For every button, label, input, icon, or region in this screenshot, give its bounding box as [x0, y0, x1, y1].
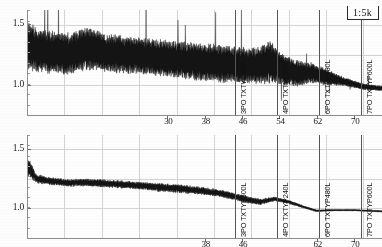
- marker-label: 7PO TXTYP600L: [366, 183, 373, 237]
- chart-panel-top: 1.51.0 303846546270 3PO TXTYP600L4PO TXT…: [0, 0, 382, 125]
- y-minor-tick: [28, 135, 30, 136]
- y-tick-mark: [28, 149, 31, 150]
- y-minor-tick: [28, 207, 30, 208]
- y-minor-tick: [28, 31, 30, 32]
- marker-label: 6PO TXTYP480L: [324, 183, 331, 237]
- y-tick-mark: [28, 24, 31, 25]
- y-tick-mark: [28, 85, 31, 86]
- x-tick-label: 46: [239, 240, 247, 247]
- y-minor-tick: [28, 42, 30, 43]
- marker-label: 4PO TXTYP240L: [282, 183, 289, 237]
- y-tick-label: 1.0: [13, 80, 24, 90]
- y-minor-tick: [28, 217, 30, 218]
- y-minor-tick: [28, 52, 30, 53]
- y-minor-tick: [28, 176, 30, 177]
- y-minor-tick: [28, 145, 30, 146]
- chart-panel-bottom: 1.51.0 38466270 3PO TXTYP600L4PO TXTYP24…: [0, 125, 382, 247]
- y-minor-tick: [28, 73, 30, 74]
- marker-line: [235, 10, 236, 115]
- marker-label: 6PO TXTYP480L: [324, 60, 331, 114]
- marker-line: [319, 135, 320, 238]
- y-minor-tick: [28, 166, 30, 167]
- y-minor-tick: [28, 21, 30, 22]
- marker-line: [319, 10, 320, 115]
- marker-label: 3PO TXTYP600L: [240, 60, 247, 114]
- y-minor-tick: [28, 10, 30, 11]
- marker-line: [277, 135, 278, 238]
- y-minor-tick: [28, 187, 30, 188]
- marker-line: [361, 10, 362, 115]
- marker-label: 7PO TXTYP600L: [366, 60, 373, 114]
- y-tick-label: 1.5: [13, 144, 24, 154]
- x-tick-label: 62: [314, 240, 322, 247]
- x-tick-label: 70: [351, 240, 359, 247]
- y-minor-tick: [28, 105, 30, 106]
- scale-badge: 1:5k: [347, 6, 379, 20]
- marker-line: [277, 10, 278, 115]
- marker-label: 4PO TXTYP240L: [282, 60, 289, 114]
- y-tick-label: 1.0: [13, 203, 24, 213]
- marker-line: [361, 135, 362, 238]
- chart-figure: 1.51.0 303846546270 3PO TXTYP600L4PO TXT…: [0, 0, 382, 247]
- y-tick-label: 1.5: [13, 19, 24, 29]
- y-minor-tick: [28, 156, 30, 157]
- x-tick-label: 38: [202, 240, 210, 247]
- y-minor-tick: [28, 84, 30, 85]
- y-minor-tick: [28, 197, 30, 198]
- marker-label: 3PO TXTYP600L: [240, 183, 247, 237]
- y-minor-tick: [28, 228, 30, 229]
- y-minor-tick: [28, 63, 30, 64]
- y-tick-mark: [28, 208, 31, 209]
- y-minor-tick: [28, 94, 30, 95]
- marker-line: [235, 135, 236, 238]
